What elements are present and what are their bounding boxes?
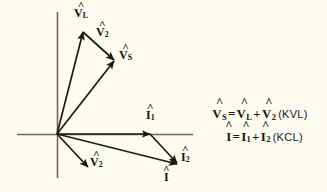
kvl-term2-sub: 2 — [272, 112, 277, 122]
kcl-law-name: (KCL) — [273, 131, 303, 143]
hat-accent-icon: ^ — [122, 42, 129, 53]
hat-accent-icon: ^ — [241, 96, 248, 108]
label-i: ^I — [164, 171, 169, 184]
label-v-2-top-sub: 2 — [105, 30, 109, 39]
kcl-term2-sub: 2 — [266, 134, 271, 144]
hat-accent-icon: ^ — [147, 102, 154, 113]
kcl-term1-sub: 1 — [247, 134, 252, 144]
label-v-2-top: ^V2 — [96, 26, 109, 39]
kcl-term2: ^I2 — [261, 127, 271, 150]
kvl-law-name: (KVL) — [278, 108, 308, 120]
kcl-plus: + — [251, 129, 261, 144]
hat-accent-icon: ^ — [99, 19, 106, 30]
label-v-l: ^VL — [74, 7, 88, 20]
label-v-s-sub: S — [128, 53, 132, 62]
hat-accent-icon: ^ — [262, 119, 269, 131]
phasor-diagram-figure: ^VL ^V2 ^VS ^V2 ^I1 ^I2 ^I ^VS=^VL+^V2(K… — [0, 0, 327, 192]
equation-kvl: ^VS=^VL+^V2(KVL) — [196, 104, 324, 127]
vector-arrows — [57, 32, 177, 167]
label-i-1-sub: 1 — [151, 113, 155, 122]
kcl-lhs: ^I — [226, 127, 231, 150]
equation-kcl: ^I=^I1+^I2(KCL) — [196, 127, 324, 150]
label-v-s: ^VS — [119, 49, 132, 62]
kvl-plus: + — [252, 106, 262, 121]
hat-accent-icon: ^ — [242, 119, 249, 131]
equation-block: ^VS=^VL+^V2(KVL) ^I=^I1+^I2(KCL) — [196, 104, 324, 149]
label-i-2: ^I2 — [181, 151, 190, 164]
label-i-1: ^I1 — [146, 109, 155, 122]
label-v-2-bottom: ^V2 — [90, 156, 103, 169]
kcl-term1: ^I1 — [241, 127, 251, 150]
hat-accent-icon: ^ — [265, 96, 272, 108]
label-v-2-bottom-sub: 2 — [99, 160, 103, 169]
kcl-equals: = — [232, 129, 242, 144]
hat-accent-icon: ^ — [93, 149, 100, 160]
hat-accent-icon: ^ — [163, 164, 170, 175]
vector-i — [57, 134, 177, 164]
hat-accent-icon: ^ — [216, 96, 223, 108]
vector-v-2-lower — [57, 134, 88, 167]
label-v-l-sub: L — [83, 11, 88, 20]
label-i-2-sub: 2 — [186, 155, 190, 164]
hat-accent-icon: ^ — [78, 0, 85, 11]
hat-accent-icon: ^ — [225, 119, 232, 131]
hat-accent-icon: ^ — [182, 144, 189, 155]
